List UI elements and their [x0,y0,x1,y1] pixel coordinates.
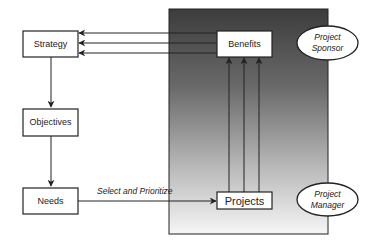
strategy-label: Strategy [34,39,68,49]
projects-label: Projects [225,195,265,207]
sponsor-line1: Project [314,32,341,42]
needs-box: Needs [23,188,78,214]
objectives-label: Objectives [29,117,72,127]
benefits-box: Benefits [217,31,272,57]
project-manager-ellipse: Project Manager [297,183,358,216]
strategy-box: Strategy [23,31,78,57]
select-prioritize-label: Select and Prioritize [97,186,173,196]
objectives-box: Objectives [23,109,78,136]
needs-label: Needs [37,196,64,206]
projects-box: Projects [217,192,272,209]
project-sponsor-ellipse: Project Sponsor [297,26,358,60]
diagram-canvas: Select and Prioritize Strategy Objective… [0,0,381,244]
benefits-label: Benefits [228,39,261,49]
manager-line2: Manager [311,200,346,210]
manager-line1: Project [314,189,341,199]
sponsor-line2: Sponsor [312,43,345,53]
